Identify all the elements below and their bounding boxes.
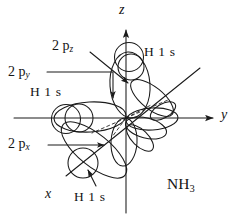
label-2py: 2 py	[8, 65, 30, 81]
orbital-diagram: 2 pz 2 py 2 px H 1 s H 1 s H 1 s z y x N…	[0, 0, 235, 217]
label-h1s-bottom: H 1 s	[74, 190, 106, 204]
2py-left-lobe	[53, 100, 126, 134]
molecule-label: NH3	[167, 176, 195, 194]
label-h1s-top: H 1 s	[144, 45, 176, 59]
h1s-orbital-y	[52, 104, 94, 134]
h1s-sphere-x-front	[68, 148, 98, 178]
axis-label-z: z	[119, 3, 124, 17]
origin-lobe-c	[147, 98, 178, 124]
orbital-diagram-svg	[0, 0, 235, 217]
axis-label-y: y	[221, 108, 227, 122]
axis-x	[66, 68, 200, 176]
label-2px: 2 px	[8, 137, 30, 153]
axis-label-x: x	[45, 187, 51, 201]
origin-lobe-b	[122, 120, 158, 155]
label-h1s-left: H 1 s	[30, 85, 62, 99]
h1s-orbital-x	[68, 148, 98, 178]
2px-lower-left-lobe	[53, 112, 135, 187]
label-2pz: 2 pz	[52, 39, 73, 55]
h1s-orbital-z	[115, 43, 145, 81]
